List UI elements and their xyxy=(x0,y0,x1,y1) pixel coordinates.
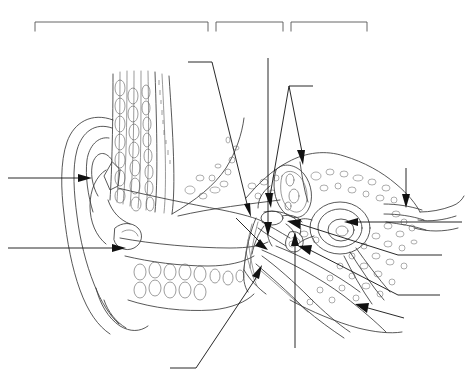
leader-stapes xyxy=(291,232,299,348)
leader-incus xyxy=(289,86,305,165)
lower-cartilage xyxy=(125,256,254,311)
leader-eardrum xyxy=(264,58,272,236)
auditory-nerve xyxy=(384,204,426,230)
ear-anatomy-figure xyxy=(0,0,468,388)
bracket-outer-ear xyxy=(35,22,208,31)
bracket-inner-ear xyxy=(291,22,367,31)
leader-semicircular-canals xyxy=(402,168,410,208)
leader-ear-lobe xyxy=(8,244,126,252)
leader-pinna xyxy=(8,174,92,182)
leader-eustachian-tube xyxy=(298,245,440,295)
eustachian-tube xyxy=(256,256,350,338)
leader-ear-canal xyxy=(188,62,251,217)
diagram-canvas xyxy=(0,0,468,388)
bracket-middle-ear xyxy=(216,22,283,31)
leader-malleus xyxy=(265,86,313,208)
leader-oval-window xyxy=(170,265,262,368)
